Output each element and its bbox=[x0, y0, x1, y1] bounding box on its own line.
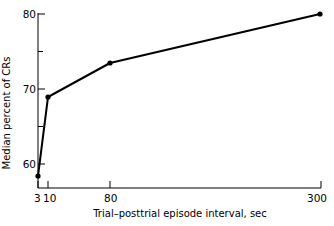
data-point-marker bbox=[107, 60, 112, 65]
chart-figure: Median percent of CRs Trial–posttrial ep… bbox=[0, 0, 334, 226]
data-point-marker bbox=[45, 94, 50, 99]
data-point-marker bbox=[35, 173, 40, 178]
data-point-marker bbox=[317, 11, 322, 16]
data-line-series-1 bbox=[38, 14, 320, 176]
plot-area bbox=[0, 0, 334, 226]
